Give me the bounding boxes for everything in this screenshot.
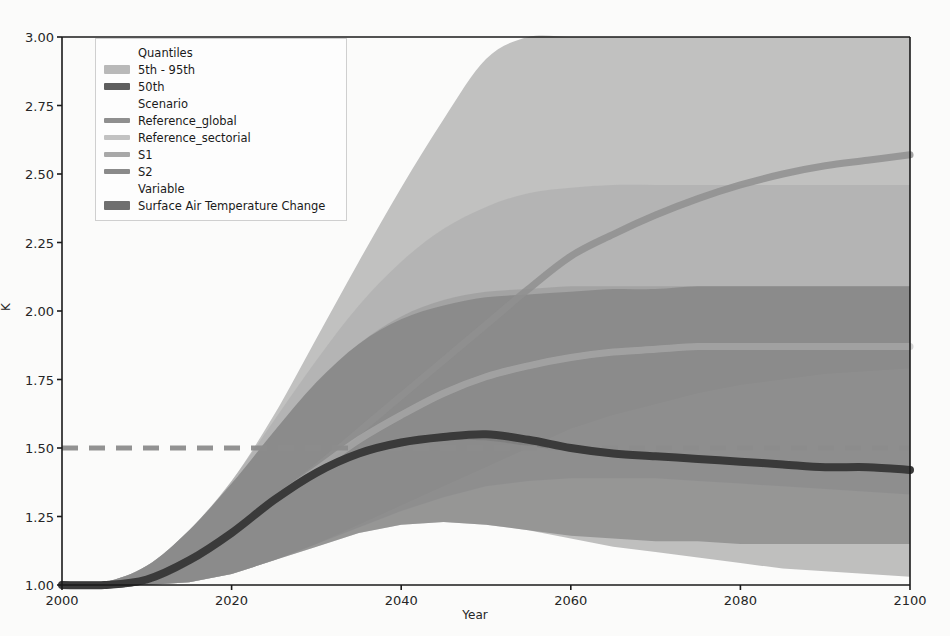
legend-swatch-icon [104, 201, 130, 210]
legend-entry-label: Reference_global [138, 114, 237, 128]
legend-swatch-icon [104, 118, 130, 123]
legend-title-text: Quantiles [138, 46, 193, 60]
chart-figure: 1.001.251.501.752.002.252.502.753.00 200… [0, 0, 950, 636]
x-axis-label: Year [0, 608, 950, 622]
chart-legend[interactable]: Quantiles5th - 95th50thScenarioReference… [95, 38, 347, 221]
legend-title-text: Scenario [138, 97, 188, 111]
legend-entry-s1[interactable]: S1 [104, 146, 338, 163]
legend-entry-reference-sectorial[interactable]: Reference_sectorial [104, 129, 338, 146]
legend-swatch-spacer [104, 185, 130, 193]
legend-entry-5th-95th[interactable]: 5th - 95th [104, 61, 338, 78]
legend-group-title: Quantiles [104, 44, 338, 61]
legend-group-title: Scenario [104, 95, 338, 112]
legend-title-text: Variable [138, 182, 185, 196]
legend-entry-label: S1 [138, 148, 153, 162]
legend-swatch-icon [104, 152, 130, 157]
legend-swatch-icon [104, 135, 130, 140]
legend-swatch-spacer [104, 100, 130, 108]
legend-entry-surface-air-temperature-change[interactable]: Surface Air Temperature Change [104, 197, 338, 214]
legend-group-title: Variable [104, 180, 338, 197]
legend-swatch-spacer [104, 49, 130, 57]
legend-entry-50th[interactable]: 50th [104, 78, 338, 95]
legend-entry-label: Reference_sectorial [138, 131, 251, 145]
legend-swatch-icon [104, 65, 130, 74]
legend-entry-label: Surface Air Temperature Change [138, 199, 325, 213]
legend-entry-reference-global[interactable]: Reference_global [104, 112, 338, 129]
legend-entry-label: 50th [138, 80, 164, 94]
legend-entry-label: 5th - 95th [138, 63, 195, 77]
legend-entry-label: S2 [138, 165, 153, 179]
legend-swatch-icon [104, 169, 130, 174]
legend-entry-s2[interactable]: S2 [104, 163, 338, 180]
legend-swatch-icon [104, 83, 130, 90]
y-axis-label: K [0, 303, 13, 311]
